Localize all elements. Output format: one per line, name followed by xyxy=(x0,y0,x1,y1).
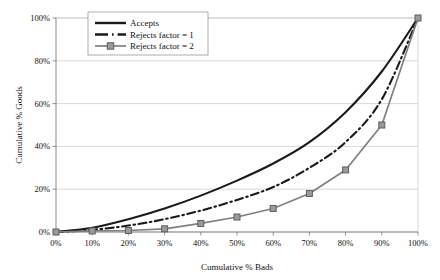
y-tick-label: 0% xyxy=(39,227,50,237)
series-marker-2 xyxy=(125,228,131,234)
x-tick-label: 30% xyxy=(157,238,173,248)
x-tick-label: 40% xyxy=(193,238,209,248)
x-tick-label: 100% xyxy=(408,238,428,248)
y-tick-label: 40% xyxy=(34,141,50,151)
chart-plot: 0%10%20%30%40%50%60%70%80%90%100% 0%20%4… xyxy=(0,0,440,280)
chart-legend: AcceptsRejects factor = 1Rejects factor … xyxy=(88,12,208,55)
x-tick-label: 90% xyxy=(374,238,390,248)
x-tick-label: 60% xyxy=(265,238,281,248)
legend-marker-2 xyxy=(107,43,113,49)
series-marker-2 xyxy=(343,167,349,173)
series-marker-2 xyxy=(270,205,276,211)
x-axis-title: Cumulative % Bads xyxy=(201,262,273,272)
series-marker-2 xyxy=(379,122,385,128)
series-marker-2 xyxy=(198,220,204,226)
chart-container: 0%10%20%30%40%50%60%70%80%90%100% 0%20%4… xyxy=(0,0,440,280)
legend-label-2: Rejects factor = 2 xyxy=(130,41,194,51)
x-tick-label: 70% xyxy=(302,238,318,248)
series-marker-2 xyxy=(162,226,168,232)
y-axis-title: Cumulative % Goods xyxy=(14,86,24,164)
x-tick-label: 20% xyxy=(121,238,137,248)
y-tick-label: 100% xyxy=(30,13,50,23)
y-tick-label: 80% xyxy=(34,56,50,66)
series-marker-2 xyxy=(306,190,312,196)
x-tick-label: 0% xyxy=(50,238,61,248)
y-tick-label: 60% xyxy=(34,99,50,109)
legend-label-0: Accepts xyxy=(130,18,159,28)
x-tick-label: 80% xyxy=(338,238,354,248)
series-marker-2 xyxy=(53,229,59,235)
x-tick-label: 50% xyxy=(229,238,245,248)
series-marker-2 xyxy=(234,214,240,220)
y-tick-label: 20% xyxy=(34,184,50,194)
y-axis-ticks: 0%20%40%60%80%100% xyxy=(30,13,56,237)
series-marker-2 xyxy=(415,15,421,21)
legend-label-1: Rejects factor = 1 xyxy=(130,30,194,40)
x-axis-ticks: 0%10%20%30%40%50%60%70%80%90%100% xyxy=(50,232,428,248)
series-marker-2 xyxy=(89,228,95,234)
x-tick-label: 10% xyxy=(84,238,100,248)
